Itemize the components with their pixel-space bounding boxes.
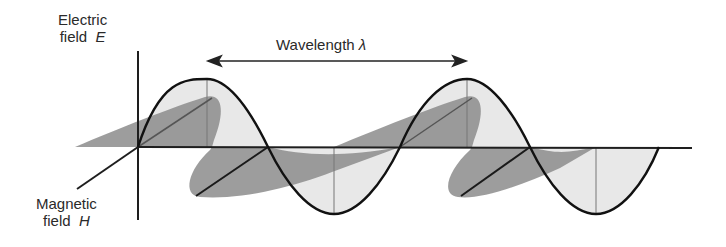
electric-field-label: Electric field E [58, 11, 107, 45]
magnetic-label-line2: field H [36, 212, 97, 229]
electric-label-line1: Electric [58, 11, 107, 28]
magnetic-field-label: Magnetic field H [36, 195, 97, 229]
magnetic-symbol: H [79, 212, 90, 229]
lambda-symbol: λ [359, 36, 366, 53]
wavelength-arrow [208, 56, 466, 66]
magnetic-axis [77, 147, 138, 189]
propagation-axis [138, 147, 692, 148]
magnetic-label-line1: Magnetic [36, 195, 97, 212]
wavelength-label: Wavelength λ [276, 36, 366, 53]
electric-symbol: E [96, 28, 106, 45]
h-lobe-3 [334, 96, 481, 147]
electric-label-line2: field E [58, 28, 107, 45]
